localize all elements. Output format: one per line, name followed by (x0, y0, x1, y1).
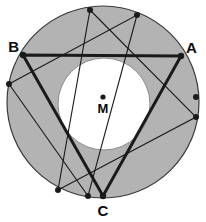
geometry-figure: A B C M (0, 0, 206, 222)
center-point-m-dot (100, 94, 105, 99)
outer-circle-point-1 (87, 7, 93, 13)
vertex-label-b: B (8, 38, 19, 55)
outer-circle-point-5 (85, 193, 91, 199)
outer-circle-point-6 (55, 187, 61, 193)
outer-circle-point-7 (6, 81, 12, 87)
triangle-vertex-dot-a (178, 53, 184, 59)
triangle-vertex-dot-b (20, 52, 26, 58)
outer-circle-point-4 (193, 114, 199, 120)
outer-circle-point-3 (193, 94, 199, 100)
center-label-m: M (98, 101, 109, 116)
outer-circle-point-2 (134, 12, 140, 18)
vertex-label-a: A (186, 39, 197, 56)
triangle-vertex-dot-c (100, 193, 106, 199)
vertex-label-c: C (98, 202, 109, 219)
